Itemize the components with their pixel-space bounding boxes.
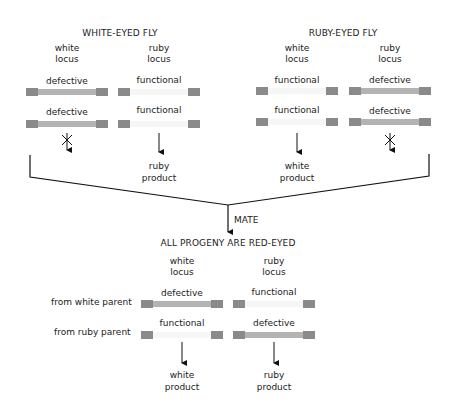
chromosome-bar-functional: [118, 88, 200, 96]
mate-label: MATE: [234, 215, 258, 226]
product-label: white: [170, 370, 195, 381]
chromosome-bar-defective: [233, 331, 315, 339]
locus-label: locus: [147, 54, 170, 65]
product-label: product: [142, 173, 177, 184]
product-label: product: [280, 173, 315, 184]
allele-label: functional: [275, 105, 320, 116]
locus-label: white: [55, 43, 80, 54]
row-label-from-white-parent: from white parent: [51, 297, 132, 308]
allele-label: functional: [160, 318, 205, 329]
chromosome-bar-functional: [118, 120, 200, 128]
chromosome-bar-defective: [349, 118, 431, 126]
allele-label: functional: [275, 75, 320, 86]
locus-label: locus: [55, 54, 78, 65]
product-label: product: [165, 382, 200, 393]
chromosome-bar-functional: [256, 118, 338, 126]
chromosome-bar-defective: [26, 88, 108, 96]
locus-label: locus: [378, 54, 401, 65]
locus-label: locus: [170, 267, 193, 278]
mating-bracket: [30, 154, 429, 205]
allele-label: defective: [253, 318, 295, 329]
allele-label: defective: [46, 107, 88, 118]
allele-label: defective: [369, 106, 411, 117]
locus-label: locus: [262, 267, 285, 278]
chromosome-bar-defective: [141, 300, 223, 308]
chromosome-bar-functional: [233, 300, 315, 308]
allele-label: functional: [252, 287, 297, 298]
product-label: ruby: [149, 161, 169, 172]
product-label: white: [285, 161, 310, 172]
allele-label: defective: [369, 75, 411, 86]
product-label: ruby: [264, 370, 284, 381]
chromosome-bar-defective: [26, 120, 108, 128]
ruby-eyed-fly-title: RUBY-EYED FLY: [309, 28, 378, 39]
locus-label: ruby: [380, 43, 400, 54]
chromosome-bar-functional: [256, 87, 338, 95]
white-eyed-fly-title: WHITE-EYED FLY: [82, 28, 157, 39]
allele-label: defective: [46, 76, 88, 87]
progeny-title: ALL PROGENY ARE RED-EYED: [161, 238, 296, 249]
chromosome-bar-functional: [141, 331, 223, 339]
product-label: product: [257, 382, 292, 393]
locus-label: locus: [285, 54, 308, 65]
locus-label: ruby: [149, 43, 169, 54]
row-label-from-ruby-parent: from ruby parent: [54, 327, 131, 338]
locus-label: white: [170, 256, 195, 267]
locus-label: ruby: [264, 256, 284, 267]
allele-label: functional: [137, 75, 182, 86]
allele-label: functional: [137, 105, 182, 116]
allele-label: defective: [161, 288, 203, 299]
locus-label: white: [285, 43, 310, 54]
chromosome-bar-defective: [349, 87, 431, 95]
